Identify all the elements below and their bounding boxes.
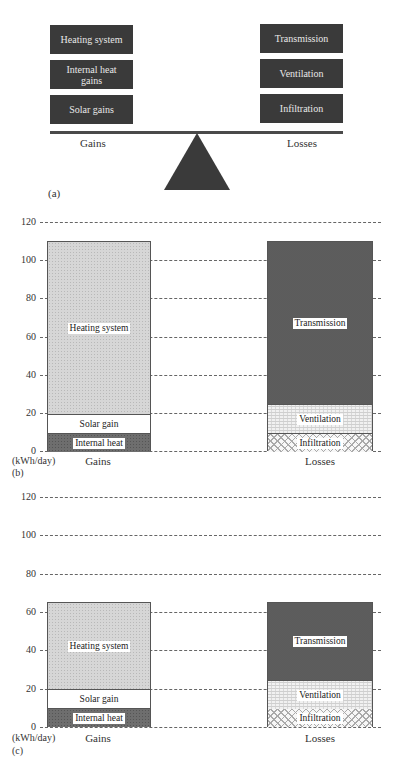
- y-tick-label: 0: [0, 721, 36, 732]
- y-tick-label: 120: [0, 491, 36, 502]
- segment-label: Internal heat: [73, 713, 125, 724]
- stacked-bar-gains: Internal heatSolar gainHeating system: [47, 602, 151, 727]
- stacked-bar-losses: InfiltrationVentilationTransmission: [267, 602, 373, 727]
- segment-label: Transmission: [293, 636, 348, 647]
- bar-segment-heating-system: Heating system: [48, 603, 150, 689]
- bar-segment-internal-heat: Internal heat: [48, 708, 150, 727]
- y-tick-label: 40: [0, 644, 36, 655]
- bar-segment-infiltration: Infiltration: [268, 708, 372, 727]
- x-category-gains: Gains: [48, 732, 148, 744]
- bar-segment-solar-gain: Solar gain: [48, 689, 150, 708]
- segment-label: Ventilation: [297, 690, 343, 701]
- bar-segment-transmission: Transmission: [268, 603, 372, 680]
- y-tick-label: 100: [0, 529, 36, 540]
- y-tick-label: 20: [0, 683, 36, 694]
- bar-chart-c: 020406080100120Internal heatSolar gainHe…: [0, 0, 402, 774]
- segment-label: Heating system: [68, 641, 131, 652]
- gridline: [40, 727, 381, 728]
- gridline: [40, 497, 381, 498]
- y-tick-label: 60: [0, 606, 36, 617]
- bar-segment-ventilation: Ventilation: [268, 680, 372, 709]
- panel-label-c: (c): [12, 745, 23, 756]
- segment-label: Infiltration: [297, 713, 342, 724]
- segment-label: Solar gain: [78, 694, 121, 705]
- gridline: [40, 574, 381, 575]
- x-category-losses: Losses: [270, 732, 370, 744]
- gridline: [40, 535, 381, 536]
- y-tick-label: 80: [0, 568, 36, 579]
